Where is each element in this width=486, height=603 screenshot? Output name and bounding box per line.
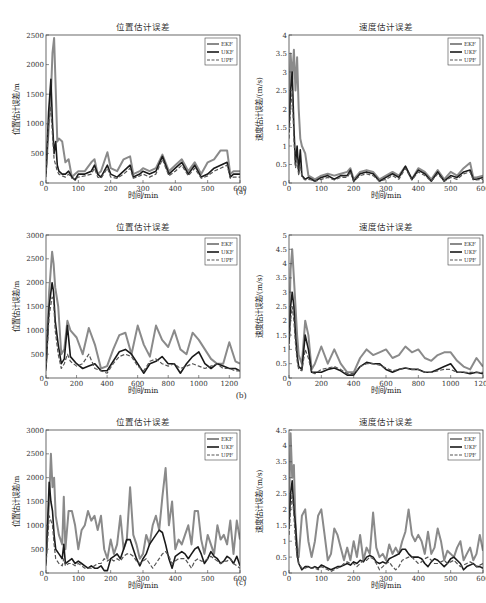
x-tick-label: 1000 — [442, 380, 460, 388]
y-tick-label: 1500 — [26, 498, 44, 506]
x-tick-label: 600 — [476, 185, 486, 193]
y-axis-label: 速度估计误差/(m/s) — [254, 274, 264, 338]
y-tick-label: 1000 — [26, 327, 44, 335]
y-tick-label: 2000 — [26, 474, 44, 482]
y-tick-label: 1 — [283, 538, 287, 546]
x-tick-label: 100 — [315, 185, 328, 193]
y-tick-label: 2 — [283, 106, 287, 114]
series-ekf-line — [289, 50, 483, 180]
y-tick-label: 3.5 — [276, 458, 287, 466]
y-axis-label: 位置估计误差/m — [11, 476, 21, 528]
y-tick-label: 4 — [283, 442, 288, 450]
x-tick-label: 100 — [72, 185, 85, 193]
legend-label-ukf: UKF — [464, 249, 477, 255]
chart-a-right: 速度估计误差010020030040050060000.511.522.533.… — [243, 0, 486, 200]
series-upf-line — [289, 307, 483, 374]
y-tick-label: 3.5 — [276, 274, 287, 282]
legend-label-ukf: UKF — [464, 49, 477, 55]
legend-label-upf: UPF — [221, 57, 233, 63]
legend-label-ukf: UKF — [464, 444, 477, 450]
y-axis-label: 速度估计误差/(m/s) — [254, 469, 264, 533]
x-tick-label: 500 — [444, 575, 457, 583]
y-tick-label: 500 — [31, 351, 44, 359]
panel-label-a: (a) — [236, 186, 246, 196]
y-tick-label: 1.5 — [276, 522, 287, 530]
legend: EKFUKFUPF — [448, 433, 480, 460]
series-group — [46, 252, 240, 374]
y-tick-label: 2 — [283, 317, 287, 325]
series-group — [289, 50, 483, 181]
y-tick-label: 1000 — [26, 522, 44, 530]
chart-a-left: 位置估计误差0100200300400500600050010001500200… — [0, 0, 243, 200]
x-tick-label: 0 — [287, 380, 291, 388]
x-tick-label: 400 — [347, 380, 360, 388]
y-tick-label: 2 — [283, 506, 287, 514]
chart-b-left: 位置估计误差0200400600800100012000500100015002… — [0, 200, 243, 395]
chart-title: 速度估计误差 — [359, 417, 413, 427]
panel-label-c: (c) — [236, 577, 246, 587]
x-axis-label: 时间/min — [371, 385, 402, 395]
y-tick-label: 2000 — [26, 279, 44, 287]
y-tick-label: 2500 — [26, 255, 44, 263]
legend-label-upf: UPF — [221, 452, 233, 458]
legend-label-ukf: UKF — [221, 249, 234, 255]
plot-b-left: 位置估计误差0200400600800100012000500100015002… — [0, 200, 243, 395]
legend-label-ekf: EKF — [464, 41, 476, 47]
plot-a-right: 速度估计误差010020030040050060000.511.522.533.… — [243, 0, 486, 200]
chart-c-left: 位置估计误差0100200300400500600050010001500200… — [0, 395, 243, 590]
y-tick-label: 1500 — [26, 303, 44, 311]
x-tick-label: 0 — [287, 575, 291, 583]
y-tick-label: 1.5 — [276, 124, 287, 132]
legend: EKFUKFUPF — [448, 238, 480, 265]
y-tick-label: 0 — [40, 375, 44, 383]
y-tick-label: 0 — [283, 375, 287, 383]
x-tick-label: 800 — [412, 380, 425, 388]
y-tick-label: 1000 — [26, 120, 44, 128]
x-tick-label: 0 — [44, 575, 48, 583]
chart-title: 速度估计误差 — [359, 222, 413, 232]
y-tick-label: 0 — [40, 570, 44, 578]
legend-label-upf: UPF — [464, 57, 476, 63]
y-tick-label: 500 — [31, 150, 44, 158]
y-tick-label: 3.5 — [276, 50, 287, 58]
legend-label-ekf: EKF — [221, 241, 233, 247]
legend-label-ukf: UKF — [221, 49, 234, 55]
x-tick-label: 200 — [104, 185, 117, 193]
y-tick-label: 2.5 — [276, 490, 287, 498]
y-tick-label: 1500 — [26, 91, 44, 99]
series-ekf-line — [46, 454, 240, 559]
x-axis-label: 时间/min — [128, 385, 159, 395]
x-tick-label: 200 — [347, 185, 360, 193]
y-axis-label: 位置估计误差/m — [11, 281, 21, 333]
series-ekf-line — [289, 249, 483, 372]
legend-label-upf: UPF — [464, 257, 476, 263]
legend: EKFUKFUPF — [205, 238, 237, 265]
series-upf-line — [289, 91, 483, 182]
legend-label-upf: UPF — [464, 452, 476, 458]
y-tick-label: 0 — [283, 570, 287, 578]
x-tick-label: 0 — [44, 185, 48, 193]
y-tick-label: 1 — [283, 346, 287, 354]
y-tick-label: 4 — [283, 32, 288, 40]
y-tick-label: 3000 — [26, 427, 44, 435]
plot-c-right: 速度估计误差010020030040050060000.511.522.533.… — [243, 395, 486, 590]
series-ukf-line — [289, 292, 483, 375]
chart-title: 位置估计误差 — [116, 417, 170, 427]
y-tick-label: 2500 — [26, 32, 44, 40]
series-group — [46, 454, 240, 571]
x-tick-label: 0 — [44, 380, 48, 388]
y-tick-label: 2.5 — [276, 87, 287, 95]
plot-c-left: 位置估计误差0100200300400500600050010001500200… — [0, 395, 243, 590]
x-axis-label: 时间/min — [128, 580, 159, 590]
x-tick-label: 1000 — [190, 380, 208, 388]
x-tick-label: 400 — [169, 575, 182, 583]
y-tick-label: 3 — [283, 69, 287, 77]
y-tick-label: 0.5 — [276, 554, 287, 562]
x-tick-label: 200 — [347, 575, 360, 583]
x-axis-label: 时间/min — [371, 580, 402, 590]
y-tick-label: 0.5 — [276, 360, 287, 368]
legend: EKFUKFUPF — [205, 38, 237, 65]
chart-title: 速度估计误差 — [359, 22, 413, 32]
y-tick-label: 2000 — [26, 61, 44, 69]
x-tick-label: 200 — [70, 380, 83, 388]
